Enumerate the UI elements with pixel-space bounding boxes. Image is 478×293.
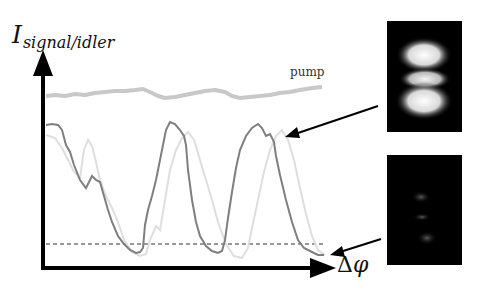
x-axis-arrowhead-icon (310, 258, 336, 278)
y-axis (33, 50, 53, 270)
dim-intensity-pattern (387, 155, 462, 265)
arrowhead-icon (285, 127, 300, 138)
arrow-to-min (330, 239, 381, 257)
y-axis-arrowhead-icon (33, 50, 53, 76)
x-axis (41, 258, 336, 278)
arrowhead-icon (330, 246, 345, 257)
pump-trace (46, 87, 322, 98)
top-inset-image (387, 21, 462, 132)
bottom-inset-image (387, 155, 462, 265)
bright-intensity-pattern (387, 21, 462, 132)
arrow-to-max (285, 106, 378, 138)
